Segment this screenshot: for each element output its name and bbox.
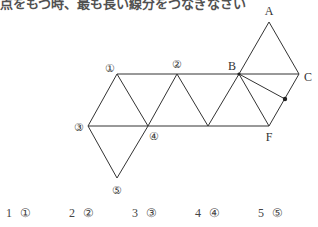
choice-5[interactable]: 5⑤	[258, 206, 318, 221]
label-A: A	[265, 4, 274, 19]
label-1: ①	[105, 62, 115, 75]
net-diagram	[0, 0, 318, 227]
choice-2[interactable]: 2②	[69, 206, 132, 221]
label-5: ⑤	[112, 184, 122, 197]
label-2: ②	[172, 58, 182, 71]
choice-1[interactable]: 1①	[6, 206, 69, 221]
point-marker	[283, 97, 287, 101]
label-B: B	[228, 59, 236, 74]
label-4: ④	[149, 130, 159, 143]
label-F: F	[266, 130, 273, 145]
label-C: C	[304, 70, 312, 85]
choice-4[interactable]: 4④	[195, 206, 258, 221]
label-3: ③	[74, 121, 84, 134]
choice-3[interactable]: 3③	[132, 206, 195, 221]
answer-choices: 1① 2② 3③ 4④ 5⑤	[6, 206, 318, 221]
